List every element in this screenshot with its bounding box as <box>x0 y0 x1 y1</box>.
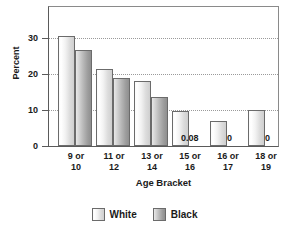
value-label-black-18-or-19: 0 <box>265 134 270 143</box>
y-tick-label-30: 30 <box>0 34 38 43</box>
legend-swatch-white-icon <box>92 208 105 221</box>
legend-item-black[interactable]: Black <box>153 208 198 221</box>
x-tick-line2: 19 <box>243 162 289 173</box>
bar-black-13-or-14[interactable] <box>151 97 168 146</box>
bar-chart: Percent 30 20 10 0 0.08 0 0 9 or <box>0 0 289 236</box>
x-tick-label-18-or-19: 18 or 19 <box>243 151 289 173</box>
legend-item-white[interactable]: White <box>92 208 137 221</box>
x-tick-line1: 18 or <box>243 151 289 162</box>
bar-black-9-or-10[interactable] <box>75 50 92 146</box>
legend-label-black: Black <box>171 210 198 220</box>
bar-white-11-or-12[interactable] <box>96 69 113 146</box>
y-tick-label-10: 10 <box>0 106 38 115</box>
bar-black-11-or-12[interactable] <box>113 78 130 146</box>
legend-swatch-black-icon <box>153 208 166 221</box>
bar-white-16-or-17[interactable] <box>210 121 227 146</box>
bar-white-13-or-14[interactable] <box>134 81 151 146</box>
bars-layer <box>49 7 278 146</box>
bar-white-9-or-10[interactable] <box>58 36 75 146</box>
value-label-black-16-or-17: 0 <box>227 134 232 143</box>
chart-legend: White Black <box>0 208 289 221</box>
y-tick-label-20: 20 <box>0 70 38 79</box>
value-label-black-15-or-16: 0.08 <box>181 134 199 143</box>
bar-white-18-or-19[interactable] <box>248 110 265 146</box>
y-tick-label-0: 0 <box>0 142 38 151</box>
x-axis-title: Age Bracket <box>48 177 279 188</box>
legend-label-white: White <box>110 210 137 220</box>
